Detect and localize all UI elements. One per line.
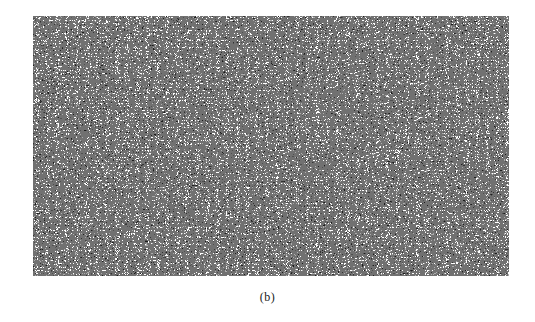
noise-texture-graphic <box>33 16 509 276</box>
speckle-noise-image <box>33 16 509 276</box>
figure: (b) <box>0 0 535 322</box>
figure-caption: (b) <box>0 290 535 305</box>
